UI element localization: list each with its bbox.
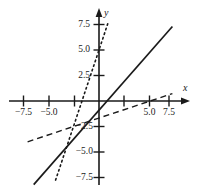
y-tick-label-7.5: 7.5 <box>78 20 90 30</box>
y-tick-label--2.5: −2.5 <box>76 122 93 132</box>
y-axis <box>94 8 105 185</box>
x-tick-label-5.0: 5.0 <box>144 108 156 118</box>
x-tick-label-7.5: 7.5 <box>163 108 175 118</box>
y-axis-label: y <box>104 8 108 18</box>
x-tick-label--5.0: −5.0 <box>40 108 57 118</box>
y-axis-arrowhead <box>96 8 103 17</box>
y-tick-label-2.5: 2.5 <box>78 71 90 81</box>
x-axis-label: x <box>183 83 187 93</box>
x-axis-arrowhead <box>181 98 190 105</box>
y-tick-label-5.0: 5.0 <box>78 45 90 55</box>
y-tick-label--5.0: −5.0 <box>76 147 93 157</box>
x-tick-label--7.5: −7.5 <box>15 108 32 118</box>
y-tick-label--7.5: −7.5 <box>76 173 93 183</box>
plot-area <box>0 0 198 194</box>
line-graph-figure: −7.5 −5.0 5.0 7.5 7.5 5.0 2.5 −2.5 −5.0 … <box>0 0 198 194</box>
